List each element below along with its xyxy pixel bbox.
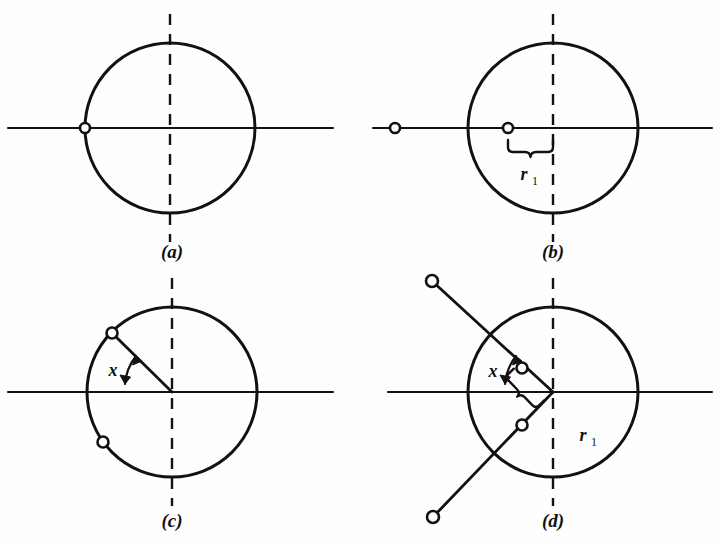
panel-d-radius-label: r	[579, 425, 587, 445]
panel-b-marker-inner	[503, 123, 513, 133]
panel-d-brace-group	[502, 369, 545, 412]
panel-c-label: (c)	[161, 510, 182, 532]
panel-c: x (c)	[8, 278, 333, 532]
panel-d: x r 1 (d)	[388, 275, 712, 532]
panel-c-angle-arrow-head-lower	[120, 375, 131, 384]
panel-a: (a)	[8, 14, 333, 263]
panel-b: r 1 (b)	[373, 14, 712, 263]
panel-c-marker-lower-left	[98, 437, 109, 448]
panel-d-label: (d)	[542, 510, 564, 532]
panel-c-marker-radius-end	[107, 328, 118, 339]
panel-a-marker-left-intersection	[80, 123, 90, 133]
panel-b-radius-subscript: 1	[532, 174, 538, 188]
panel-b-label: (b)	[542, 241, 564, 263]
technical-diagram: (a) r 1 (b) x (c)	[0, 0, 720, 548]
panel-d-marker-outer-lower-left	[427, 511, 439, 523]
figure-container: (a) r 1 (b) x (c)	[0, 0, 720, 548]
panel-d-diagonal-line-lower	[433, 392, 553, 517]
panel-a-label: (a)	[161, 241, 183, 263]
panel-d-marker-inner-upper	[517, 363, 528, 374]
panel-d-angle-label: x	[488, 361, 498, 381]
panel-d-marker-inner-lower	[517, 420, 528, 431]
panel-d-marker-outer-upper-left	[426, 275, 438, 287]
panel-b-brace	[508, 140, 553, 157]
panel-c-angle-label: x	[108, 360, 118, 380]
panel-b-marker-outer-left	[390, 123, 400, 133]
panel-b-radius-label: r	[520, 164, 528, 184]
panel-d-brace	[502, 369, 545, 412]
panel-d-radius-subscript: 1	[591, 435, 597, 449]
panel-c-radius-line	[112, 333, 172, 392]
